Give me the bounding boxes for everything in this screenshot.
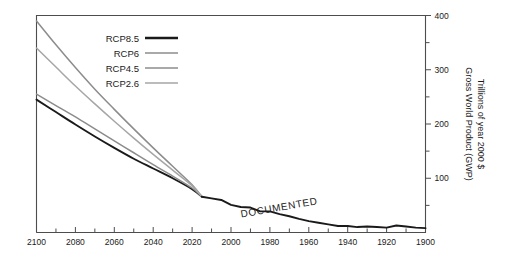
y-tick-label: 200 <box>435 119 449 129</box>
y-axis-title-line1: Gross World Product (GWP) <box>464 67 474 180</box>
chart-canvas: 2100208020602040202020001980196019401920… <box>0 0 510 266</box>
chart-background <box>0 0 510 266</box>
x-tick-label: 2000 <box>222 237 241 247</box>
x-tick-label: 2100 <box>27 237 46 247</box>
x-tick-label: 1900 <box>416 237 435 247</box>
y-tick-label: 400 <box>435 11 449 21</box>
legend-label-rcp8-5: RCP8.5 <box>106 33 139 44</box>
y-tick-label: 300 <box>435 65 449 75</box>
x-tick-label: 1960 <box>299 237 318 247</box>
legend-label-rcp6: RCP6 <box>114 48 139 59</box>
chart-figure: 2100208020602040202020001980196019401920… <box>0 0 510 266</box>
y-tick-label: 100 <box>435 173 449 183</box>
x-tick-label: 2060 <box>105 237 124 247</box>
x-tick-label: 2040 <box>144 237 163 247</box>
x-tick-label: 1980 <box>260 237 279 247</box>
x-tick-label: 1940 <box>338 237 357 247</box>
legend-label-rcp4-5: RCP4.5 <box>106 63 139 74</box>
y-axis-title-line2: Trillions of year 2000 $ <box>476 79 486 170</box>
x-tick-label: 1920 <box>377 237 396 247</box>
legend-label-rcp2-6: RCP2.6 <box>106 78 139 89</box>
x-tick-label: 2080 <box>66 237 85 247</box>
x-tick-label: 2020 <box>183 237 202 247</box>
